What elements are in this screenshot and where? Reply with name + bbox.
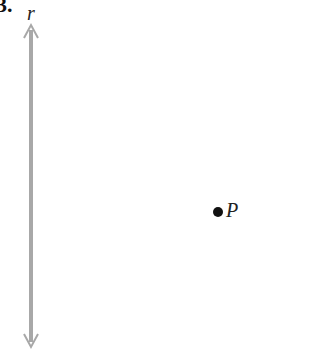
line-r [24,25,38,347]
point-label: P [226,199,238,222]
diagram [0,0,313,363]
point-p [213,207,223,217]
